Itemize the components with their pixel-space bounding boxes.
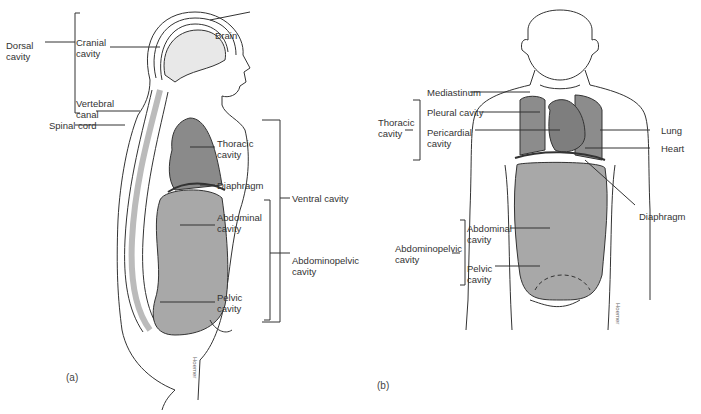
label-brain: Brain [215, 30, 237, 41]
label-ventral-cavity: Ventral cavity [292, 193, 349, 204]
label-mediastinum: Mediastinum [427, 87, 481, 98]
panel-b-label: (b) [377, 380, 389, 391]
label-pleural-cavity: Pleural cavity [427, 107, 484, 118]
label-pelvic-cavity: Pelvic cavity [217, 292, 242, 314]
label-pelvic-cavity-b: Pelvic cavity [467, 263, 492, 285]
label-vertebral-canal: Vertebral canal [76, 98, 114, 120]
label-cranial-cavity: Cranial cavity [76, 37, 106, 59]
label-abdominal-cavity-b: Abdominal cavity [467, 223, 512, 245]
label-abdominopelvic-cavity-b: Abdominopelvic cavity [395, 243, 462, 265]
abdominopelvic-cavity-front [514, 162, 607, 300]
label-abdominal-cavity: Abdominal cavity [217, 212, 262, 234]
label-diaphragm-b: Diaphragm [639, 211, 685, 222]
left-lung [520, 96, 545, 155]
anatomy-diagram [0, 0, 701, 414]
thoracic-cavity-side [169, 118, 222, 190]
label-spinal-cord: Spinal cord [49, 120, 97, 131]
signature-b: Hoemer [615, 303, 621, 324]
label-diaphragm: Diaphragm [217, 180, 263, 191]
label-pericardial-cavity: Pericardial cavity [427, 127, 472, 149]
label-abdominopelvic-cavity-a: Abdominopelvic cavity [292, 255, 359, 277]
label-thoracic-cavity-b: Thoracic cavity [378, 117, 414, 139]
signature-a: Hoemer [192, 357, 198, 378]
label-dorsal-cavity: Dorsal cavity [6, 40, 33, 62]
label-thoracic-cavity: Thoracic cavity [217, 138, 253, 160]
panel-a-label: (a) [66, 372, 78, 383]
label-heart: Heart [661, 143, 684, 154]
label-lung: Lung [661, 125, 682, 136]
